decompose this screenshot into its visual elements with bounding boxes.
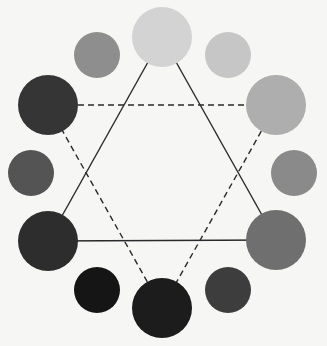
color-circle-lower-right bbox=[205, 267, 251, 313]
color-circle-left-middle bbox=[8, 150, 54, 196]
color-wheel-diagram bbox=[0, 0, 327, 346]
color-circle-left-upper bbox=[18, 75, 78, 135]
triangles-layer bbox=[48, 37, 276, 308]
color-circle-right-upper bbox=[246, 75, 306, 135]
color-circle-top bbox=[132, 7, 192, 67]
color-circle-right-lower bbox=[246, 210, 306, 270]
solid-triangle-edge bbox=[48, 240, 276, 241]
color-circle-lower-left bbox=[74, 267, 120, 313]
color-circle-bottom bbox=[132, 278, 192, 338]
color-circle-right-middle bbox=[271, 150, 317, 196]
color-circle-upper-left bbox=[74, 32, 120, 78]
color-circle-upper-right bbox=[205, 32, 251, 78]
color-circle-left-lower bbox=[18, 211, 78, 271]
circles-layer bbox=[8, 7, 317, 338]
